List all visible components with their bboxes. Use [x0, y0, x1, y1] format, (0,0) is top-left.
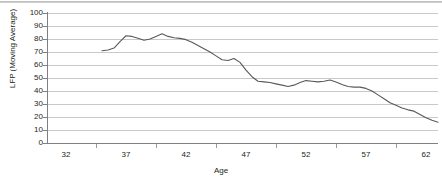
- x-axis-title: Age: [0, 166, 442, 175]
- y-axis-tick-labels: 0102030405060708090100: [14, 0, 43, 185]
- y-tick-label: 90: [19, 22, 43, 30]
- y-tick-label: 60: [19, 61, 43, 69]
- y-tick-label: 70: [19, 48, 43, 56]
- x-tick-label: 57: [351, 150, 381, 159]
- x-tick-label: 32: [51, 150, 81, 159]
- x-tick-label: 47: [231, 150, 261, 159]
- chart-container: LFP (Moving Average) 0102030405060708090…: [0, 0, 442, 185]
- x-minor-tick-mark: [216, 144, 217, 148]
- y-tick-label: 20: [19, 113, 43, 121]
- y-tick-label: 50: [19, 74, 43, 82]
- x-tick-label: 62: [411, 150, 441, 159]
- x-minor-tick-mark: [396, 144, 397, 148]
- y-tick-label: 0: [19, 139, 43, 147]
- x-tick-label: 52: [291, 150, 321, 159]
- y-tick-label: 80: [19, 35, 43, 43]
- x-minor-tick-mark: [336, 144, 337, 148]
- y-tick-label: 40: [19, 87, 43, 95]
- plot-area: [48, 13, 438, 143]
- series-line-lfp-moving-average: [48, 13, 438, 143]
- y-tick-label: 10: [19, 126, 43, 134]
- x-tick-label: 37: [111, 150, 141, 159]
- x-minor-tick-mark: [96, 144, 97, 148]
- x-axis-line: [47, 143, 438, 144]
- x-minor-tick-mark: [276, 144, 277, 148]
- y-tick-label: 100: [19, 9, 43, 17]
- top-divider-rule: [0, 1, 442, 3]
- x-tick-label: 42: [171, 150, 201, 159]
- x-minor-tick-mark: [156, 144, 157, 148]
- y-tick-label: 30: [19, 100, 43, 108]
